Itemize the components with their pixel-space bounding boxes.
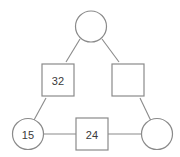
left-square-label: 32 <box>52 75 65 87</box>
edge-top-circle-to-right-square <box>102 39 119 62</box>
bottom-middle-square-label: 24 <box>86 129 99 141</box>
right-square-shape[interactable] <box>112 64 144 96</box>
node-top-circle[interactable] <box>76 11 107 42</box>
node-bottom-left-circle[interactable]: 15 <box>13 119 44 150</box>
node-bottom-middle-square[interactable]: 24 <box>76 118 108 150</box>
bottom-right-circle-shape[interactable] <box>142 119 173 150</box>
bottom-left-circle-label: 15 <box>22 129 35 141</box>
top-circle-shape[interactable] <box>76 11 107 42</box>
edge-right-square-to-bottom-right-circle <box>140 98 151 121</box>
pedigree-diagram: 32 15 24 <box>0 0 180 157</box>
node-bottom-right-circle[interactable] <box>142 119 173 150</box>
edge-left-square-to-bottom-left-circle <box>34 98 46 120</box>
pedigree-canvas: 32 15 24 <box>0 0 180 157</box>
edge-top-circle-to-left-square <box>66 39 80 62</box>
node-right-square[interactable] <box>112 64 144 96</box>
node-left-square[interactable]: 32 <box>42 64 74 96</box>
